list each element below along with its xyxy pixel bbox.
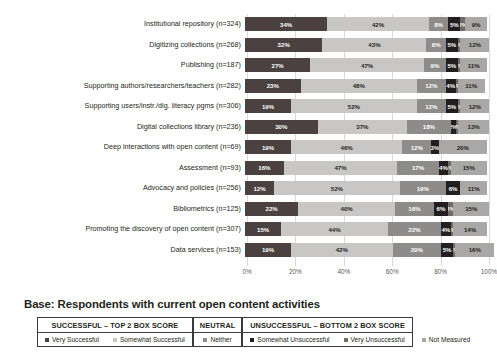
stacked-bar: 23%48%12%4%1%11% [245, 79, 487, 93]
bar-segment-very-successful: 32% [245, 38, 322, 52]
bar-segment-somewhat-successful: 42% [291, 243, 393, 257]
bar-segment-very-successful: 19% [245, 140, 291, 154]
segment-value-label: 27% [272, 62, 284, 69]
bar-segment-somewhat-successful: 47% [310, 58, 424, 72]
segment-value-label: 22% [266, 205, 278, 212]
bar-segment-somewhat-successful: 42% [327, 17, 429, 31]
category-label: Institutional repository (n=324) [0, 20, 245, 28]
bar-segment-somewhat-successful: 52% [291, 99, 417, 113]
segment-value-label: 11% [468, 62, 480, 69]
segment-value-label: 12% [425, 82, 437, 89]
chart-row: Assessment (n=93)16%47%17%4%1%15% [0, 158, 496, 179]
segment-value-label: 47% [334, 164, 346, 171]
bar-segment-somewhat-successful: 43% [322, 38, 426, 52]
segment-value-label: 30% [275, 123, 287, 130]
bar-segment-not-measured: 12% [460, 38, 489, 52]
segment-value-label: 4% [446, 82, 455, 89]
segment-value-label: 6% [437, 205, 446, 212]
legend-item-not-measured[interactable]: Not Measured [413, 317, 470, 347]
category-label: Supporting authors/researchers/teachers … [0, 82, 245, 90]
x-axis-tick: 20% [289, 268, 302, 275]
segment-value-label: 5% [447, 41, 456, 48]
category-label: Data services (n=153) [0, 246, 245, 254]
x-axis-tick: 100% [481, 268, 497, 275]
chart-legend: SUCCESSFUL – TOP 2 BOX SCOREVery Success… [37, 317, 470, 347]
legend-item-label: Somewhat Successful [120, 336, 185, 343]
bar-segment-not-measured: 13% [458, 120, 489, 134]
category-label: Supporting users/instr./dig. literacy pg… [0, 102, 245, 110]
legend-group-header: UNSUCCESSFUL – BOTTOM 2 BOX SCORE [243, 318, 411, 333]
bar-segment-somewhat-unsuccessful: 3% [431, 140, 438, 154]
category-label: Advocacy and policies (n=256) [0, 184, 245, 192]
bar-segment-very-successful: 22% [245, 202, 298, 216]
stacked-bar: 22%40%16%6%2%15% [245, 202, 489, 216]
segment-value-label: 32% [278, 41, 290, 48]
bar-segment-neither: 22% [388, 222, 441, 236]
segment-value-label: 12% [253, 185, 265, 192]
bar-segment-very-successful: 34% [245, 17, 327, 31]
legend-item[interactable]: Somewhat Successful [113, 336, 185, 343]
bar-segment-not-measured: 20% [439, 140, 487, 154]
legend-item-label: Neither [210, 336, 231, 343]
segment-value-label: 22% [408, 226, 420, 233]
segment-value-label: 48% [353, 82, 365, 89]
legend-swatch-icon [45, 338, 49, 342]
segment-value-label: 8% [432, 41, 441, 48]
legend-item[interactable]: Neither [203, 336, 231, 343]
legend-swatch-icon [250, 338, 254, 342]
bar-segment-somewhat-unsuccessful: 4% [439, 161, 449, 175]
category-label: Promoting the discovery of open content … [0, 225, 245, 233]
stacked-bar-chart: Institutional repository (n=324)34%42%8%… [0, 0, 496, 296]
bar-segment-neither: 9% [424, 58, 446, 72]
bar-segment-neither: 12% [417, 99, 446, 113]
x-axis: 0%20%40%60%80%100% [247, 268, 489, 280]
chart-row: Digital collections library (n=236)30%37… [0, 117, 496, 138]
segment-value-label: 5% [447, 103, 456, 110]
chart-row: Supporting users/instr./dig. literacy pg… [0, 96, 496, 117]
chart-row: Deep interactions with open content (n=6… [0, 137, 496, 158]
bar-segment-somewhat-successful: 37% [318, 120, 408, 134]
segment-value-label: 4% [441, 226, 450, 233]
legend-item[interactable]: Very Successful [45, 336, 99, 343]
bar-segment-somewhat-unsuccessful: 5% [448, 17, 460, 31]
stacked-bar: 16%47%17%4%1%15% [245, 161, 487, 175]
segment-value-label: 18% [423, 123, 435, 130]
stacked-bar: 12%52%19%6%0%11% [245, 181, 487, 195]
bar-segment-not-measured: 12% [460, 99, 489, 113]
legend-swatch-icon [344, 338, 348, 342]
bar-segment-neither: 16% [395, 202, 434, 216]
bar-segment-somewhat-successful: 46% [291, 140, 402, 154]
bar-segment-very-successful: 27% [245, 58, 310, 72]
stacked-bar: 32%43%8%5%1%12% [245, 38, 489, 52]
legend-item[interactable]: Somewhat Unsuccessful [250, 336, 329, 343]
segment-value-label: 20% [457, 144, 469, 151]
segment-value-label: 40% [341, 205, 353, 212]
bar-segment-not-measured: 11% [460, 181, 487, 195]
legend-item-label: Somewhat Unsuccessful [257, 336, 329, 343]
category-label: Bibliometrics (n=125) [0, 205, 245, 213]
x-axis-tick: 40% [337, 268, 350, 275]
bar-segment-somewhat-successful: 40% [298, 202, 395, 216]
bar-segment-not-measured: 11% [458, 79, 485, 93]
segment-value-label: 15% [463, 164, 475, 171]
segment-value-label: 9% [431, 62, 440, 69]
segment-value-label: 13% [468, 123, 480, 130]
chart-row: Promoting the discovery of open content … [0, 219, 496, 240]
legend-items: Very SuccessfulSomewhat Successful [38, 333, 192, 346]
segment-value-label: 12% [469, 41, 481, 48]
segment-value-label: 16% [408, 205, 420, 212]
segment-value-label: 12% [411, 144, 423, 151]
bar-segment-neither: 20% [393, 243, 441, 257]
legend-item[interactable]: Very Unsuccessful [344, 336, 405, 343]
segment-value-label: 52% [348, 103, 360, 110]
segment-value-label: 19% [262, 144, 274, 151]
bar-segment-very-successful: 30% [245, 120, 318, 134]
segment-value-label: 11% [468, 185, 480, 192]
segment-value-label: 42% [336, 246, 348, 253]
stacked-bar: 19%52%12%5%1%12% [245, 99, 489, 113]
bar-segment-neither: 8% [429, 17, 448, 31]
bar-segment-somewhat-successful: 52% [274, 181, 400, 195]
bar-segment-somewhat-unsuccessful: 5% [441, 243, 453, 257]
bar-segment-neither: 17% [397, 161, 438, 175]
bar-segment-very-successful: 19% [245, 243, 291, 257]
